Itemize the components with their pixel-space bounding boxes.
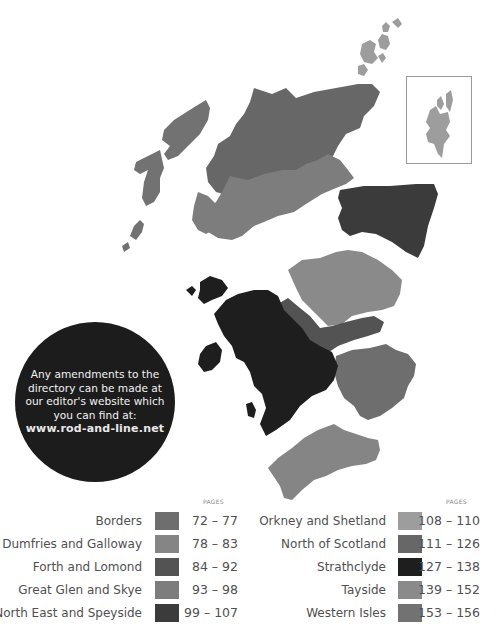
legend-row: Great Glen and Skye 93 – 98 [0, 581, 250, 601]
region-name: Dumfries and Galloway [2, 535, 142, 553]
legend-row: Borders 72 – 77 [0, 512, 250, 532]
page-range: 84 – 92 [192, 558, 238, 576]
color-swatch [155, 535, 179, 553]
region-north-east-and-speyside [338, 184, 438, 258]
callout-line-4: you can find at: [15, 409, 175, 423]
page-range: 108 – 110 [418, 512, 480, 530]
callout-line-3: our editor's website which [15, 395, 175, 409]
legend-row: Forth and Lomond 84 – 92 [0, 558, 250, 578]
legend-row: North of Scotland 111 – 126 [250, 535, 500, 555]
region-name: Borders [96, 512, 142, 530]
region-name: North of Scotland [281, 535, 386, 553]
page-range: 78 – 83 [192, 535, 238, 553]
region-name: North East and Speyside [0, 604, 142, 622]
region-dumfries-and-galloway [268, 424, 380, 500]
color-swatch [155, 604, 179, 622]
region-orkney [358, 18, 402, 76]
pages-header: PAGES [203, 498, 224, 505]
legend-row: Dumfries and Galloway 78 – 83 [0, 535, 250, 555]
callout-line-1: Any amendments to the [15, 368, 175, 382]
region-name: Forth and Lomond [33, 558, 142, 576]
color-swatch [155, 558, 179, 576]
page-range: 153 – 156 [418, 604, 480, 622]
page-range: 93 – 98 [192, 581, 238, 599]
pages-header: PAGES [446, 498, 467, 505]
legend-row: Orkney and Shetland 108 – 110 [250, 512, 500, 532]
region-borders [334, 344, 416, 420]
page-range: 139 – 152 [418, 581, 480, 599]
callout-line-2: directory can be made at [15, 382, 175, 396]
page-range: 111 – 126 [418, 535, 480, 553]
color-swatch [155, 581, 179, 599]
page-range: 127 – 138 [418, 558, 480, 576]
amendments-callout: Any amendments to the directory can be m… [15, 322, 175, 482]
page-range: 72 – 77 [192, 512, 238, 530]
region-name: Tayside [342, 581, 386, 599]
legend-row: Tayside 139 – 152 [250, 581, 500, 601]
shetland-inset-frame [406, 76, 472, 164]
legend-row: Western Isles 153 – 156 [250, 604, 500, 624]
region-name: Orkney and Shetland [259, 512, 386, 530]
region-western-isles [122, 100, 210, 252]
legend-row: Strathclyde 127 – 138 [250, 558, 500, 578]
page-range: 99 – 107 [184, 604, 238, 622]
region-name: Strathclyde [317, 558, 386, 576]
region-name: Great Glen and Skye [18, 581, 142, 599]
color-swatch [155, 512, 179, 530]
legend-row: North East and Speyside 99 – 107 [0, 604, 250, 624]
region-name: Western Isles [306, 604, 386, 622]
website-link[interactable]: www.rod-and-line.net [15, 422, 175, 436]
